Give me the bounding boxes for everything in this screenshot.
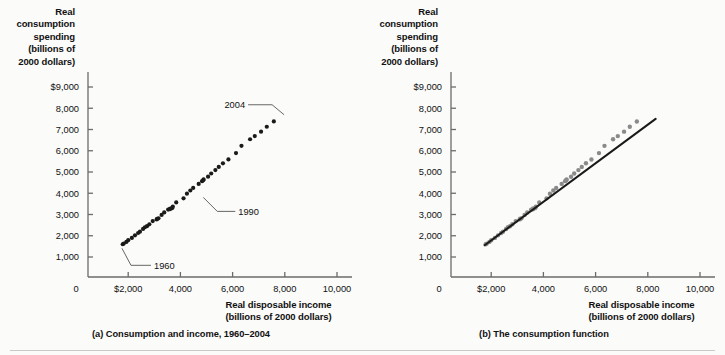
data-point — [584, 161, 588, 165]
y-axis-tick-label: $9,000 — [51, 82, 79, 92]
x-axis-title-line: Real disposable income — [225, 299, 331, 310]
y-axis-tick-label: 6,000 — [419, 146, 442, 156]
y-axis-tick-label: 2,000 — [419, 231, 442, 241]
data-point — [138, 230, 142, 234]
x-axis-tick-label: 6,000 — [221, 284, 244, 294]
data-point — [226, 157, 230, 161]
data-point — [272, 119, 276, 123]
y-axis-tick-label: 8,000 — [419, 104, 442, 114]
data-point — [554, 186, 558, 190]
data-point — [572, 171, 576, 175]
annotation-leader-1960 — [122, 248, 151, 265]
panel-a-consumption-and-income: Real consumption spending (billions of 2… — [0, 0, 362, 355]
data-point — [213, 168, 217, 172]
data-point — [221, 161, 225, 165]
data-point — [569, 174, 573, 178]
y-axis-tick-label: $9,000 — [414, 82, 442, 92]
data-point — [174, 200, 178, 204]
y-axis-tick-label: 4,000 — [56, 189, 79, 199]
panel-b-caption: (b) The consumption function — [363, 329, 725, 339]
x-axis-tick-label: 6,000 — [584, 284, 607, 294]
data-point — [209, 171, 213, 175]
data-point — [248, 137, 252, 141]
data-point — [597, 151, 601, 155]
data-point — [126, 238, 130, 242]
data-point — [253, 134, 257, 138]
annotation-leader-2004 — [248, 105, 284, 115]
y-axis-tick-label: 5,000 — [56, 167, 79, 177]
y-axis-tick-label: 4,000 — [419, 189, 442, 199]
y-axis-tick-label: 1,000 — [56, 252, 79, 262]
data-point — [206, 175, 210, 179]
x-axis-title-line: Real disposable income — [588, 299, 694, 310]
x-axis-tick-label: $2,000 — [477, 284, 505, 294]
data-point — [156, 216, 160, 220]
x-axis-tick-label: 4,000 — [169, 284, 192, 294]
data-point — [580, 165, 584, 169]
data-point — [181, 196, 185, 200]
data-point — [564, 178, 568, 182]
x-axis-title-line: (billions of 2000 dollars) — [225, 311, 331, 322]
x-axis-title-b: Real disposable income (billions of 2000… — [559, 299, 724, 324]
data-point — [147, 222, 151, 226]
y-axis-tick-label: 8,000 — [56, 104, 79, 114]
data-point — [217, 165, 221, 169]
y-axis-tick-label: 2,000 — [56, 231, 79, 241]
x-axis-tick-label: 4,000 — [532, 284, 555, 294]
x-axis-tick-label: 8,000 — [273, 284, 296, 294]
data-point — [162, 210, 166, 214]
x-axis-title-a: Real disposable income (billions of 2000… — [196, 299, 361, 324]
data-point — [259, 130, 263, 134]
y-axis-tick-label: 3,000 — [419, 210, 442, 220]
x-axis-tick-label: 8,000 — [636, 284, 659, 294]
y-axis-tick-label: 7,000 — [419, 125, 442, 135]
y-axis-tick-label: 7,000 — [56, 125, 79, 135]
data-point — [635, 119, 639, 123]
x-axis-tick-label: 0 — [73, 284, 78, 294]
annotation-leader-1990 — [203, 197, 235, 211]
panel-a-caption: (a) Consumption and income, 1960–2004 — [0, 329, 362, 339]
data-point — [201, 178, 205, 182]
consumption-function-line — [485, 119, 656, 245]
x-axis-tick-label: $2,000 — [114, 284, 142, 294]
data-point — [616, 134, 620, 138]
data-point — [239, 144, 243, 148]
data-point — [265, 125, 269, 129]
data-point — [576, 168, 580, 172]
data-point — [589, 157, 593, 161]
data-point — [234, 151, 238, 155]
data-point — [628, 125, 632, 129]
data-point — [611, 137, 615, 141]
annotation-label-1960: 1960 — [154, 261, 175, 271]
figure-consumption-function: Real consumption spending (billions of 2… — [0, 0, 725, 355]
y-axis-tick-label: 5,000 — [419, 167, 442, 177]
data-point — [602, 144, 606, 148]
figure-bottom-rule — [10, 350, 715, 351]
y-axis-tick-label: 3,000 — [56, 210, 79, 220]
y-axis-tick-label: 1,000 — [419, 252, 442, 262]
panel-b-consumption-function: Real consumption spending (billions of 2… — [363, 0, 725, 355]
x-axis-tick-label: 10,000 — [323, 284, 351, 294]
data-point — [151, 219, 155, 223]
data-point — [559, 182, 563, 186]
x-axis-tick-label: 10,000 — [686, 284, 714, 294]
x-axis-tick-label: 0 — [436, 284, 441, 294]
annotation-label-2004: 2004 — [224, 100, 245, 110]
annotation-label-1990: 1990 — [238, 207, 259, 217]
x-axis-title-line: (billions of 2000 dollars) — [588, 311, 694, 322]
data-point — [197, 182, 201, 186]
data-point — [171, 205, 175, 209]
data-point — [185, 192, 189, 196]
data-point — [622, 129, 626, 133]
data-point — [191, 186, 195, 190]
y-axis-tick-label: 6,000 — [56, 146, 79, 156]
